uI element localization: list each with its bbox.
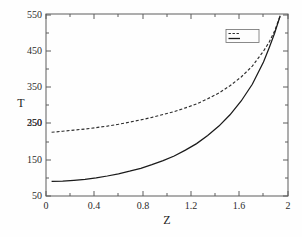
legend-box <box>226 30 259 43</box>
y-tick-label-150: 150 <box>27 154 42 165</box>
chart-legend[interactable] <box>226 30 259 43</box>
x-tick-label-0: 0 <box>44 200 49 211</box>
chart-figure: 550 450 350 350 350 150 50 350 250 0 0.4… <box>0 0 302 237</box>
y-tick-label-50: 50 <box>32 190 42 201</box>
y-axis-right-ticks <box>283 15 288 196</box>
y-tick-label-450: 450 <box>27 45 42 56</box>
x-axis-top-ticks <box>46 14 288 19</box>
x-tick-label-16: 1.6 <box>233 200 246 211</box>
x-tick-label-12: 1.2 <box>185 200 198 211</box>
x-axis-title: Z <box>163 213 170 227</box>
y-tick-label-350-actual: 350 <box>27 81 42 92</box>
x-tick-label-08: 0.8 <box>137 200 150 211</box>
x-tick-label-2: 2 <box>286 200 291 211</box>
y-axis-ticks <box>46 15 51 196</box>
y-tick-label-550: 550 <box>27 9 42 20</box>
x-tick-label-04: 0.4 <box>88 200 101 211</box>
y-tick-label-250-actual: 250 <box>27 117 42 128</box>
plot-area: 550 450 350 350 350 150 50 350 250 0 0.4… <box>0 0 302 237</box>
x-axis-ticks <box>46 191 288 196</box>
y-axis-title: T <box>17 96 25 110</box>
